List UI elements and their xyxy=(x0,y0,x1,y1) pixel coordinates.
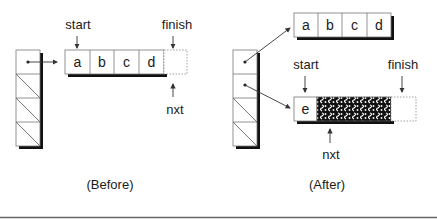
after-column xyxy=(233,28,290,149)
array-cell-d: d xyxy=(148,54,156,70)
uninitialized-cells xyxy=(317,97,391,121)
before-caption: (Before) xyxy=(87,177,134,192)
start-label: start xyxy=(293,57,319,72)
array-cell-a: a xyxy=(302,17,310,33)
array-cell-b: b xyxy=(98,54,106,70)
array-cell-d: d xyxy=(375,17,383,33)
start-label: start xyxy=(65,17,91,32)
array-cell-a: a xyxy=(74,54,82,70)
after-caption: (After) xyxy=(309,177,345,192)
finish-label: finish xyxy=(388,57,418,72)
array-cell-e: e xyxy=(302,101,310,117)
array-cell-c: c xyxy=(123,54,130,70)
array-cell-b: b xyxy=(326,17,334,33)
unused-capacity-cell xyxy=(391,97,416,121)
nxt-label: nxt xyxy=(322,147,340,162)
pointer-arrow-old-array xyxy=(245,28,290,62)
finish-label: finish xyxy=(162,17,192,32)
array-cell-c: c xyxy=(351,17,358,33)
before-column xyxy=(16,50,57,149)
after-old-array: a b c d xyxy=(294,13,394,40)
after-panel: a b c d e start finish nxt (After) xyxy=(233,13,418,192)
diagram-canvas: a b c d start finish nxt (Before) xyxy=(0,0,437,219)
nxt-label: nxt xyxy=(166,102,184,117)
before-panel: a b c d start finish nxt (Before) xyxy=(16,17,192,192)
unused-capacity-cell xyxy=(164,50,187,74)
before-array: a b c d xyxy=(65,50,187,77)
after-new-array: e xyxy=(294,97,416,124)
